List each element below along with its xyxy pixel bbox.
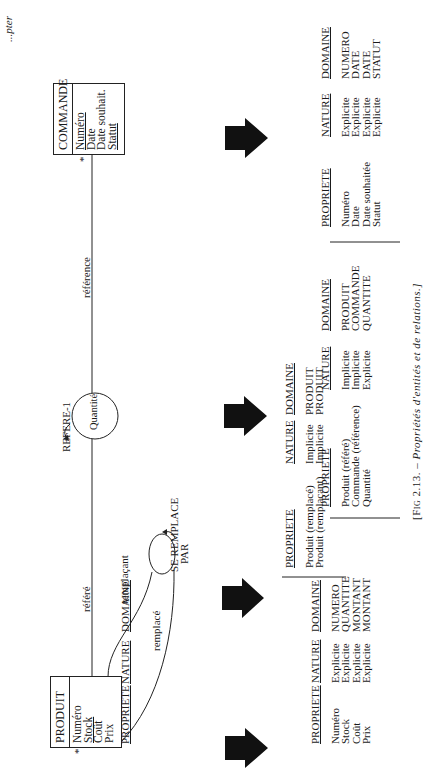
caption-prefix: [Fig 2.13. – <box>410 463 422 520</box>
caption-text: Propriétés d'entités et de relations.] <box>410 283 422 460</box>
rotated-page: ...pter PRODUIT Numéro Stock <box>0 0 444 782</box>
figure-caption: [Fig 2.13. – Propriétés d'entités et de … <box>410 283 422 520</box>
table-separators <box>0 0 444 782</box>
